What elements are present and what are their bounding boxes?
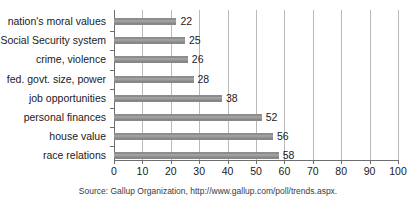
x-axis-tick bbox=[171, 160, 172, 164]
bar bbox=[114, 152, 279, 159]
x-axis-tick bbox=[284, 160, 285, 164]
x-axis-tick bbox=[256, 160, 257, 164]
x-axis-tick-label: 40 bbox=[213, 165, 243, 177]
bar-value-label: 28 bbox=[198, 70, 210, 89]
bar-value-label: 52 bbox=[266, 108, 278, 127]
bar bbox=[114, 76, 194, 83]
x-axis-tick bbox=[228, 160, 229, 164]
category-label: crime, violence bbox=[36, 50, 106, 69]
bar-value-label: 38 bbox=[226, 89, 238, 108]
gridline-100 bbox=[398, 10, 399, 160]
bar-row: 22 bbox=[114, 12, 398, 31]
bar-row: 26 bbox=[114, 50, 398, 69]
bar bbox=[114, 133, 273, 140]
x-axis-tick bbox=[114, 160, 115, 164]
x-axis-tick-label: 80 bbox=[326, 165, 356, 177]
bar-value-label: 25 bbox=[189, 31, 201, 50]
x-axis-tick bbox=[142, 160, 143, 164]
source-note: Source: Gallup Organization, http://www.… bbox=[0, 186, 416, 196]
x-axis-tick-label: 50 bbox=[241, 165, 271, 177]
category-label: job opportunities bbox=[29, 89, 106, 108]
bar-series: 2225262838525658 bbox=[114, 10, 398, 160]
plot-area: 2225262838525658 bbox=[114, 10, 398, 160]
bar-row: 52 bbox=[114, 108, 398, 127]
x-axis-tick bbox=[313, 160, 314, 164]
bar bbox=[114, 37, 185, 44]
bar bbox=[114, 18, 176, 25]
x-axis-tick-label: 90 bbox=[355, 165, 385, 177]
x-axis-tick-label: 60 bbox=[269, 165, 299, 177]
bar-value-label: 26 bbox=[192, 50, 204, 69]
x-axis-tick-label: 20 bbox=[156, 165, 186, 177]
bar bbox=[114, 114, 262, 121]
x-axis-tick bbox=[199, 160, 200, 164]
x-axis-tick-label: 10 bbox=[127, 165, 157, 177]
x-axis-tick bbox=[398, 160, 399, 164]
category-label: nation's moral values bbox=[8, 12, 106, 31]
category-label: personal finances bbox=[24, 108, 106, 127]
x-axis-tick-label: 100 bbox=[383, 165, 413, 177]
bar-value-label: 22 bbox=[180, 12, 192, 31]
bar-row: 56 bbox=[114, 127, 398, 146]
bar-row: 38 bbox=[114, 89, 398, 108]
bar bbox=[114, 95, 222, 102]
bar-value-label: 56 bbox=[277, 127, 289, 146]
bar bbox=[114, 56, 188, 63]
x-axis-tick-label: 30 bbox=[184, 165, 214, 177]
bar-chart: nation's moral valuesSocial Security sys… bbox=[0, 0, 416, 208]
category-label: fed. govt. size, power bbox=[7, 70, 106, 89]
category-axis: nation's moral valuesSocial Security sys… bbox=[0, 10, 110, 160]
x-axis-tick bbox=[341, 160, 342, 164]
x-axis-tick-label: 70 bbox=[298, 165, 328, 177]
category-label: Social Security system bbox=[0, 31, 106, 50]
bar-row: 25 bbox=[114, 31, 398, 50]
bar-row: 28 bbox=[114, 70, 398, 89]
x-axis-tick-label: 0 bbox=[99, 165, 129, 177]
category-label: house value bbox=[49, 127, 106, 146]
category-label: race relations bbox=[43, 146, 106, 165]
x-axis-tick bbox=[370, 160, 371, 164]
